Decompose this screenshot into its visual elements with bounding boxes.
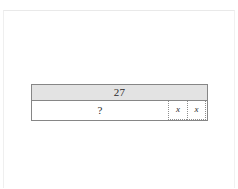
variable-part-cell-1: x [168, 101, 187, 120]
bar-model-diagram: 27 ? x x [31, 84, 208, 121]
diagram-canvas: 27 ? x x [0, 0, 238, 189]
total-bar-row: 27 [31, 84, 208, 101]
parts-bar-row: ? x x [31, 100, 208, 121]
variable-part-cell-2: x [187, 101, 206, 120]
total-value-cell: 27 [32, 85, 207, 100]
unknown-part-cell: ? [32, 101, 168, 120]
